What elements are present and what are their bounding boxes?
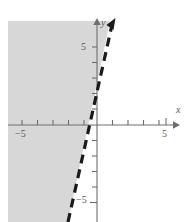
x-axis-label: x [176, 104, 180, 115]
x-tick-label-pos5: 5 [162, 128, 167, 139]
graph-figure: −5 5 5 −5 y x [0, 0, 191, 222]
x-axis-arrowhead [173, 121, 180, 128]
y-axis-label: y [101, 17, 105, 28]
x-tick-label-neg5: −5 [15, 128, 26, 139]
y-tick-label-pos5: 5 [81, 41, 86, 52]
shaded-solution-region [8, 21, 110, 222]
y-tick-label-neg5: −5 [76, 194, 87, 205]
coordinate-plane [0, 0, 191, 222]
